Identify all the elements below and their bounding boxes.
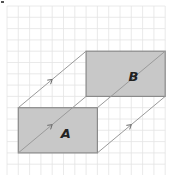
shape-label-a: A: [60, 126, 71, 141]
shape-b: [86, 51, 165, 96]
translation-diagram: AB: [0, 0, 172, 175]
shapes: [18, 51, 165, 153]
shape-label-b: B: [129, 69, 139, 84]
shape-a: [18, 108, 97, 153]
